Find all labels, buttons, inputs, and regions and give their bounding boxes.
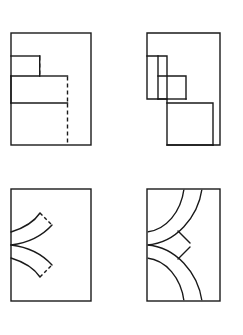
arc-lower-cross-cap <box>178 247 190 259</box>
band-lower-end-cap <box>40 265 52 277</box>
panel-bottom-right-frame <box>147 189 220 301</box>
band-lower-inner-arc <box>11 245 52 265</box>
panel-top-left <box>11 33 91 145</box>
band-lower-outer-arc <box>11 258 40 277</box>
band-upper-inner-arc <box>11 225 52 245</box>
band-upper-end-cap <box>40 213 52 225</box>
arc-upper-inner <box>147 189 202 245</box>
staircase-step-three <box>167 103 213 145</box>
arc-lower-outer <box>147 258 184 301</box>
staircase-step-two <box>158 76 186 99</box>
arc-upper-outer <box>147 189 184 232</box>
panel-bottom-left <box>11 189 91 301</box>
staircase-step-one <box>147 56 167 99</box>
panel-top-right <box>147 33 220 145</box>
figure-root <box>0 0 243 335</box>
panel-bottom-right <box>147 189 220 301</box>
step-edge-upper-block <box>11 56 40 76</box>
band-upper-outer-arc <box>11 213 40 232</box>
arc-lower-inner <box>147 245 202 301</box>
panel-top-left-frame <box>11 33 91 145</box>
panel-bottom-left-frame <box>11 189 91 301</box>
arc-upper-cross-cap <box>178 231 190 243</box>
figure-canvas <box>0 0 243 335</box>
